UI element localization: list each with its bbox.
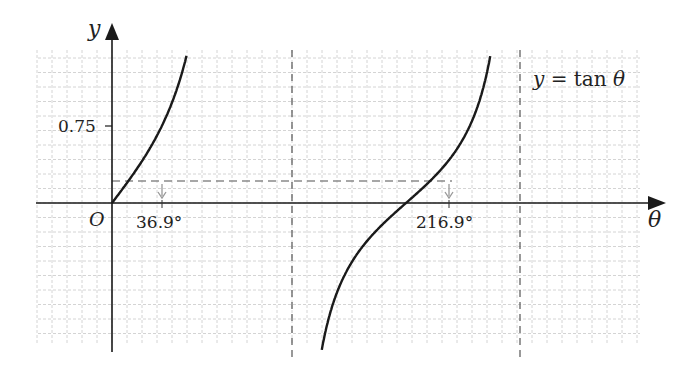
y-tick-label-075: 0.75 [58,116,96,136]
tan-curve-branch-1 [112,56,187,203]
grid [37,50,640,345]
x-tick-label-36-9: 36.9° [136,212,182,232]
origin-label: O [89,208,105,230]
x-tick-label-216-9: 216.9° [416,212,473,232]
theta-axis-label: θ [648,207,661,232]
y-axis-label: y [87,16,101,41]
function-label: y = tan θ [532,67,625,91]
y-axis-arrow-icon [105,23,119,40]
tan-graph: y θ O 0.75 36.9° 216.9° y = tan θ [0,0,698,367]
